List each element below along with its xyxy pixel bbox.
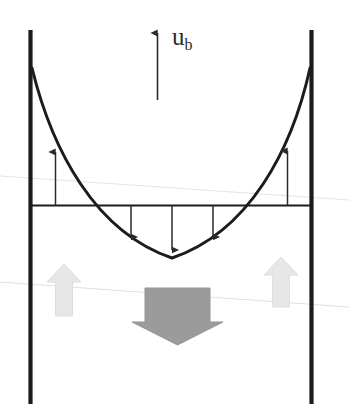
bubble-velocity-profile-diagram: ub: [0, 0, 349, 416]
block-arrow-down-center: [132, 288, 223, 345]
block-arrow-up-left: [47, 264, 81, 316]
bubble-rise-velocity-label: ub: [172, 24, 193, 53]
scan-artifact-lines: [0, 176, 349, 307]
liquid-velocity-profile-curve: [32, 68, 310, 258]
scan-line-upper: [0, 176, 349, 200]
tube-walls: [31, 30, 312, 404]
velocity-symbol: u: [172, 23, 185, 50]
diagram-canvas: [0, 0, 349, 416]
block-arrow-up-right: [264, 257, 298, 307]
velocity-subscript: b: [185, 36, 193, 53]
